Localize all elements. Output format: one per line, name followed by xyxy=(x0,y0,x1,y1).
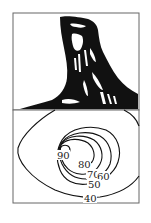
contour-label-50: 50 xyxy=(88,179,101,190)
contour-label-90: 90 xyxy=(57,150,70,161)
sketch-panel xyxy=(13,13,139,110)
contour-panel: 90 80 70 60 50 40 xyxy=(13,110,139,204)
landform-figure: 90 80 70 60 50 40 xyxy=(0,0,151,223)
contour-label-40: 40 xyxy=(84,193,97,204)
figure-canvas: 90 80 70 60 50 40 xyxy=(0,0,151,223)
contour-frame xyxy=(13,110,139,203)
